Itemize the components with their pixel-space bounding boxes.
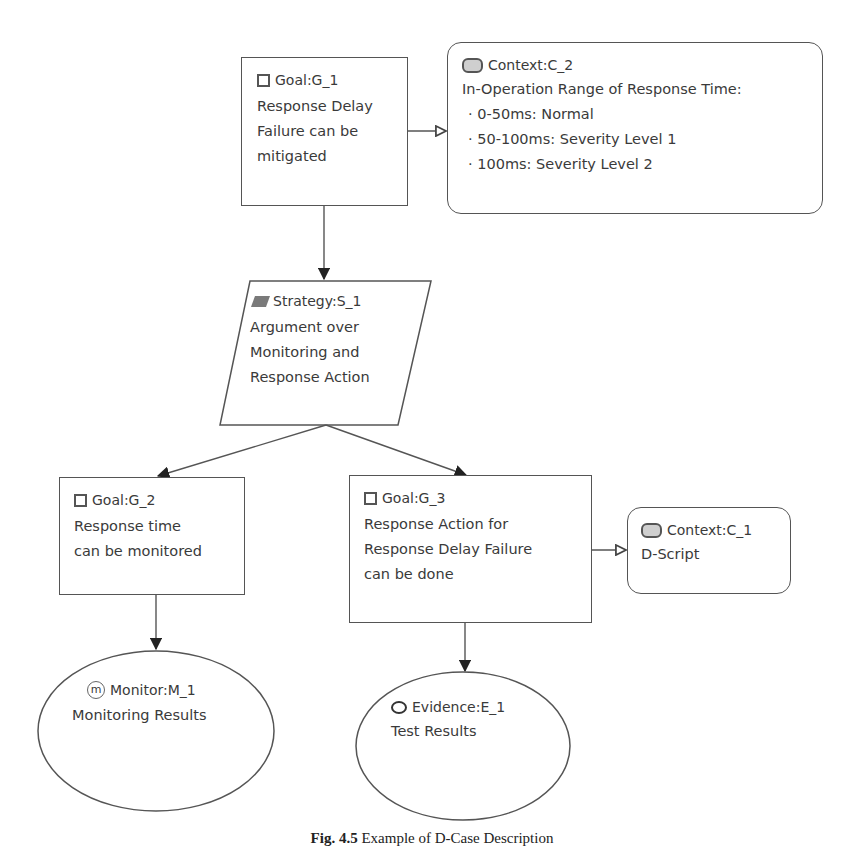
context-icon xyxy=(641,523,662,538)
evidence-node-e1: Evidence:E_1 Test Results xyxy=(391,699,551,744)
evidence-e1-shape xyxy=(356,672,570,820)
goal-g2-line: can be monitored xyxy=(74,539,244,564)
caption-prefix: Fig. 4.5 xyxy=(311,830,358,846)
goal-g3-line: Response Delay Failure xyxy=(364,537,591,562)
context-c2-label: Context:C_2 xyxy=(488,57,573,73)
goal-g1-line: mitigated xyxy=(257,144,407,169)
monitor-node-m1: m Monitor:M_1 Monitoring Results xyxy=(72,681,252,728)
context-icon xyxy=(462,58,483,73)
monitor-m1-body: Monitoring Results xyxy=(72,703,252,728)
context-c1-title: Context:C_1 xyxy=(641,522,790,538)
goal-g1-line: Failure can be xyxy=(257,119,407,144)
goal-g1-line: Response Delay xyxy=(257,94,407,119)
evidence-icon xyxy=(391,701,407,714)
goal-icon xyxy=(364,492,377,505)
goal-g3-body: Response Action for Response Delay Failu… xyxy=(364,512,591,587)
goal-g2-title: Goal:G_2 xyxy=(74,492,244,508)
goal-icon xyxy=(257,74,270,87)
edge-s1-g3 xyxy=(326,425,466,475)
context-c2-bullets: 0-50ms: Normal 50-100ms: Severity Level … xyxy=(462,102,822,177)
monitor-m1-line: Monitoring Results xyxy=(72,703,252,728)
caption-text: Example of D-Case Description xyxy=(361,830,553,846)
goal-g3-title: Goal:G_3 xyxy=(364,490,591,506)
context-c2-title: Context:C_2 xyxy=(462,57,822,73)
strategy-icon xyxy=(251,296,270,307)
strategy-s1-label: Strategy:S_1 xyxy=(273,293,361,309)
monitor-m1-label: Monitor:M_1 xyxy=(110,682,196,698)
edge-s1-g2 xyxy=(158,425,326,476)
monitor-m1-shape xyxy=(38,651,274,811)
strategy-s1-line: Argument over xyxy=(250,315,420,340)
context-c2-heading: In-Operation Range of Response Time: xyxy=(462,77,822,102)
evidence-e1-line: Test Results xyxy=(391,719,551,744)
context-node-c2: Context:C_2 In-Operation Range of Respon… xyxy=(447,42,823,214)
goal-icon xyxy=(74,494,87,507)
context-c1-label: Context:C_1 xyxy=(667,522,752,538)
context-c1-body: D-Script xyxy=(641,542,790,567)
goal-g2-body: Response time can be monitored xyxy=(74,514,244,564)
goal-g1-title: Goal:G_1 xyxy=(257,72,407,88)
goal-g1-body: Response Delay Failure can be mitigated xyxy=(257,94,407,169)
context-node-c1: Context:C_1 D-Script xyxy=(627,507,791,594)
goal-g3-line: Response Action for xyxy=(364,512,591,537)
context-c2-bullet: 50-100ms: Severity Level 1 xyxy=(462,127,822,152)
monitor-icon: m xyxy=(87,681,105,699)
evidence-e1-title: Evidence:E_1 xyxy=(391,699,551,715)
strategy-s1-line: Response Action xyxy=(250,365,420,390)
goal-g3-label: Goal:G_3 xyxy=(382,490,445,506)
evidence-e1-body: Test Results xyxy=(391,719,551,744)
figure-caption: Fig. 4.5 Example of D-Case Description xyxy=(0,830,864,847)
context-c2-bullet: 100ms: Severity Level 2 xyxy=(462,152,822,177)
goal-g3-line: can be done xyxy=(364,562,591,587)
strategy-s1-body: Argument over Monitoring and Response Ac… xyxy=(250,315,420,390)
strategy-s1-title: Strategy:S_1 xyxy=(250,293,420,309)
goal-node-g3: Goal:G_3 Response Action for Response De… xyxy=(349,475,592,623)
goal-g2-line: Response time xyxy=(74,514,244,539)
strategy-s1-line: Monitoring and xyxy=(250,340,420,365)
goal-node-g2: Goal:G_2 Response time can be monitored xyxy=(59,477,245,595)
evidence-e1-label: Evidence:E_1 xyxy=(412,699,505,715)
goal-node-g1: Goal:G_1 Response Delay Failure can be m… xyxy=(241,57,408,206)
strategy-node-s1: Strategy:S_1 Argument over Monitoring an… xyxy=(250,293,420,390)
monitor-m1-title: m Monitor:M_1 xyxy=(87,681,252,699)
context-c1-line: D-Script xyxy=(641,542,790,567)
goal-g2-label: Goal:G_2 xyxy=(92,492,155,508)
context-c2-bullet: 0-50ms: Normal xyxy=(462,102,822,127)
goal-g1-label: Goal:G_1 xyxy=(275,72,338,88)
